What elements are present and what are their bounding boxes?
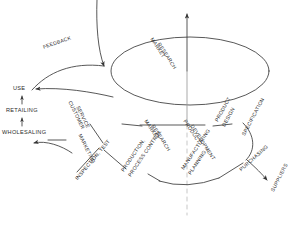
label-wholesaling: WHOLESALING	[2, 129, 46, 135]
customer-service-to-use-curve	[36, 89, 113, 97]
spiral-inflow-curve	[97, 0, 104, 66]
spoke-marketing	[90, 124, 103, 143]
main-loop-ellipse	[111, 37, 269, 105]
marketing-to-wholesaling-curve	[34, 142, 72, 153]
label-retailing: RETAILING	[6, 107, 38, 113]
quality-loop-diagram: FEEDBACK USE RETAILING WHOLESALING CUSTO…	[0, 0, 302, 231]
tier-arc-bottom	[159, 178, 219, 185]
production-to-bottom-arc	[148, 174, 160, 181]
market-research-stub	[122, 124, 142, 126]
label-use: USE	[13, 85, 25, 91]
feedback-curve	[32, 65, 104, 90]
